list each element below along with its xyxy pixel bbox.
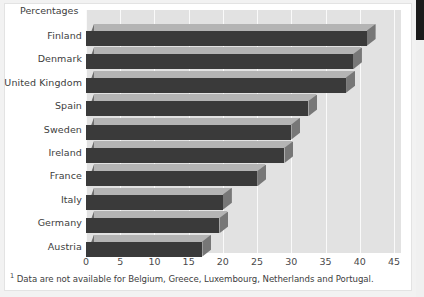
bar-top-face (94, 164, 265, 171)
tick-label-20: 20 (217, 256, 229, 267)
bar-sweden (86, 118, 300, 142)
plot-area (86, 10, 401, 253)
tick-label-15: 15 (183, 256, 195, 267)
right-edge-light-strip (416, 40, 424, 297)
tick-label-30: 30 (285, 256, 297, 267)
bar-top-face (94, 141, 292, 148)
category-label-sweden: Sweden (44, 124, 82, 135)
bar-top-face (94, 118, 299, 125)
bar-top-face (94, 24, 375, 31)
bar-top-face (94, 211, 227, 218)
tick-label-5: 5 (117, 256, 123, 267)
bar-front-face (86, 218, 219, 233)
bar-spain (86, 94, 317, 118)
footnote: 1 Data are not available for Belgium, Gr… (10, 272, 374, 284)
tick-label-25: 25 (251, 256, 263, 267)
bar-front-face (86, 148, 284, 163)
category-label-denmark: Denmark (38, 53, 82, 64)
bar-front-face (86, 195, 223, 210)
chart-figure: Percentages FinlandDenmarkUnited Kingdom… (0, 0, 424, 297)
bar-top-face (94, 71, 354, 78)
right-edge-dark-strip (416, 0, 424, 40)
category-label-spain: Spain (55, 100, 82, 111)
tick-label-0: 0 (83, 256, 89, 267)
category-label-france: France (50, 170, 82, 181)
bar-germany (86, 211, 228, 235)
tick-label-45: 45 (388, 256, 400, 267)
category-label-united-kingdom: United Kingdom (4, 77, 82, 88)
category-label-austria: Austria (48, 241, 82, 252)
bar-finland (86, 24, 376, 48)
category-label-italy: Italy (61, 194, 82, 205)
bar-front-face (86, 242, 202, 257)
bar-italy (86, 188, 232, 212)
bar-denmark (86, 47, 362, 71)
tick-label-10: 10 (148, 256, 160, 267)
category-label-ireland: Ireland (48, 147, 82, 158)
bar-united-kingdom (86, 71, 355, 95)
bar-front-face (86, 54, 353, 69)
bar-front-face (86, 78, 346, 93)
bar-front-face (86, 101, 308, 116)
bar-top-face (94, 47, 361, 54)
bar-austria (86, 235, 211, 259)
footnote-marker: 1 (10, 272, 14, 280)
bar-top-face (94, 188, 231, 195)
bar-ireland (86, 141, 293, 165)
bar-top-face (94, 94, 316, 101)
footnote-text: Data are not available for Belgium, Gree… (17, 274, 374, 284)
tick-label-35: 35 (320, 256, 332, 267)
gridline-45 (394, 10, 395, 253)
tick-label-40: 40 (354, 256, 366, 267)
category-label-germany: Germany (38, 217, 82, 228)
bar-front-face (86, 31, 367, 46)
category-axis-labels: FinlandDenmarkUnited KingdomSpainSwedenI… (0, 0, 82, 260)
bar-front-face (86, 171, 257, 186)
bar-front-face (86, 125, 291, 140)
bar-france (86, 164, 266, 188)
category-label-finland: Finland (47, 30, 82, 41)
bar-top-face (94, 235, 210, 242)
